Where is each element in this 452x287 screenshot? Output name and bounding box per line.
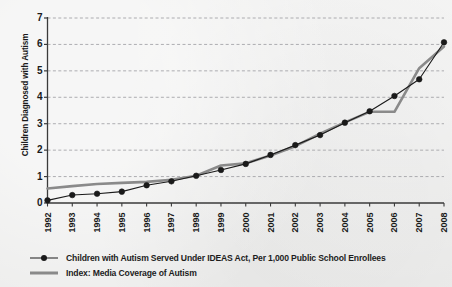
data-point-marker [342,120,348,126]
data-point-marker [144,182,150,188]
data-point-marker [94,191,100,197]
data-point-marker [416,77,422,83]
legend-item-children-autism[interactable]: Children with Autism Served Under IDEAS … [28,250,448,265]
data-point-marker [218,167,224,173]
data-point-marker [69,192,75,198]
data-point-marker [392,93,398,99]
data-point-marker [193,173,199,179]
legend-marker-thick-line-icon [28,267,60,279]
legend-marker-line-dot-icon [28,252,60,264]
legend-item-label: Children with Autism Served Under IDEAS … [66,253,386,263]
data-point-marker [441,40,447,46]
data-point-marker [367,108,373,114]
legend-item-media-coverage[interactable]: Index: Media Coverage of Autism [28,265,448,280]
chart-legend: Children with Autism Served Under IDEAS … [28,250,448,280]
data-point-marker [119,189,125,195]
autism-diagnosis-line-chart: Children Diagnosed with Autism 01234567 … [0,0,452,287]
plot-area [0,0,452,287]
data-point-marker [243,161,249,167]
data-point-marker [293,142,299,148]
data-point-marker [268,152,274,158]
data-point-marker [45,198,51,204]
data-point-marker [169,179,175,185]
series-line-media-coverage [48,47,445,189]
data-point-marker [317,132,323,138]
legend-item-label: Index: Media Coverage of Autism [66,268,197,278]
